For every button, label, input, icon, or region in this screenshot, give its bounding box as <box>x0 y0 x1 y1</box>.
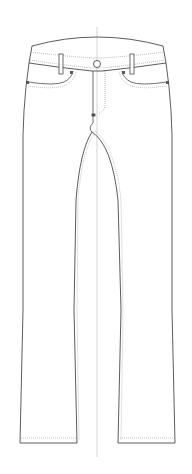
rivets <box>26 71 169 84</box>
button <box>94 61 101 68</box>
jeans-drawing <box>0 0 192 474</box>
hems <box>20 438 175 443</box>
left-leg <box>20 63 94 443</box>
jeans-sketch: technical flat sketch of jeans (front vi… <box>0 0 192 474</box>
fly <box>90 71 105 132</box>
right-leg <box>92 63 175 443</box>
front-pockets <box>28 71 167 88</box>
